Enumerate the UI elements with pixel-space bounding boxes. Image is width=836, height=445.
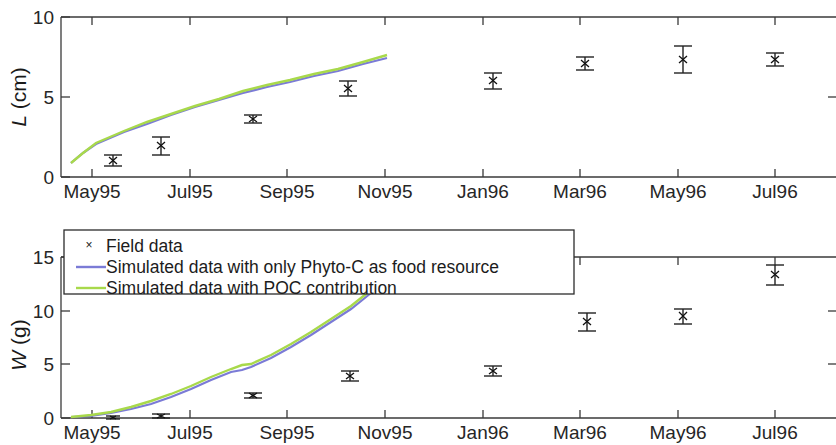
- x-tick-label-bottom-mar96: Mar96: [553, 422, 607, 443]
- x-ticks-top-panel: [92, 17, 775, 177]
- y-tick-label-top-10: 10: [33, 7, 54, 28]
- x-tick-label-top-jul96: Jul96: [752, 181, 797, 202]
- legend-label-field-data: Field data: [106, 236, 183, 256]
- x-tick-label-bottom-jul96: Jul96: [752, 422, 797, 443]
- field-data-points-top: [104, 46, 784, 166]
- error-bar: [244, 115, 262, 123]
- error-bar: [766, 265, 784, 285]
- error-bar: [152, 414, 170, 418]
- x-tick-label-bottom-nov95: Nov95: [358, 422, 413, 443]
- error-bar: [484, 366, 502, 376]
- error-bar: [341, 371, 359, 381]
- y-axis-title-top: L (cm): [7, 67, 30, 127]
- error-bar: [152, 137, 170, 155]
- y-tick-label-bottom-5: 5: [43, 354, 54, 375]
- error-bar: [674, 46, 692, 73]
- y-tick-label-bottom-0: 0: [43, 408, 54, 429]
- panel-top: 0 5 10 May95: [7, 7, 836, 202]
- x-tick-label-bottom-sep95: Sep95: [260, 422, 315, 443]
- series-line-blue-top: [71, 58, 387, 163]
- error-bar: [576, 57, 594, 70]
- legend-item-phyto-c[interactable]: Simulated data with only Phyto-C as food…: [76, 257, 499, 277]
- figure-container: 0 5 10 May95: [0, 0, 836, 445]
- y-axis-unit-bottom: (g): [7, 319, 30, 345]
- x-tick-label-bottom-jan96: Jan96: [457, 422, 509, 443]
- y-axis-symbol-top: L: [7, 115, 30, 127]
- figure-svg: 0 5 10 May95: [0, 0, 836, 445]
- error-bar: [104, 155, 122, 166]
- x-tick-label-top-jul95: Jul95: [167, 181, 212, 202]
- x-tick-label-bottom-jul95: Jul95: [167, 422, 212, 443]
- error-bar: [484, 73, 502, 89]
- y-tick-label-bottom-10: 10: [33, 301, 54, 322]
- x-tick-label-bottom-may96: May96: [649, 422, 706, 443]
- legend-label-phyto-c: Simulated data with only Phyto-C as food…: [106, 257, 499, 277]
- legend[interactable]: × Field data Simulated data with only Ph…: [64, 230, 574, 298]
- x-tick-label-top-mar96: Mar96: [553, 181, 607, 202]
- y-tick-label-top-0: 0: [43, 167, 54, 188]
- y-axis-unit-top: (cm): [7, 67, 30, 109]
- x-tick-label-top-nov95: Nov95: [358, 181, 413, 202]
- x-tick-label-top-sep95: Sep95: [260, 181, 315, 202]
- svg-text:W (g): W (g): [7, 319, 30, 370]
- y-tick-label-bottom-15: 15: [33, 247, 54, 268]
- x-tick-label-top-jan96: Jan96: [457, 181, 509, 202]
- legend-label-poc: Simulated data with POC contribution: [106, 278, 397, 298]
- x-tick-label-top-may95: May95: [63, 181, 120, 202]
- error-bar: [578, 313, 596, 331]
- svg-text:L (cm): L (cm): [7, 67, 30, 127]
- x-tick-label-bottom-may95: May95: [63, 422, 120, 443]
- field-data-marker-icon: ×: [85, 238, 92, 252]
- y-tick-label-top-5: 5: [43, 87, 54, 108]
- y-ticks-top-panel: [61, 17, 70, 177]
- legend-item-poc[interactable]: Simulated data with POC contribution: [76, 278, 397, 298]
- error-bar: [674, 309, 692, 324]
- x-tick-label-top-may96: May96: [649, 181, 706, 202]
- error-bar: [339, 81, 357, 96]
- y-axis-title-bottom: W (g): [7, 319, 30, 370]
- y-axis-symbol-bottom: W: [7, 349, 30, 371]
- error-bar: [244, 393, 262, 398]
- error-bar: [766, 53, 784, 66]
